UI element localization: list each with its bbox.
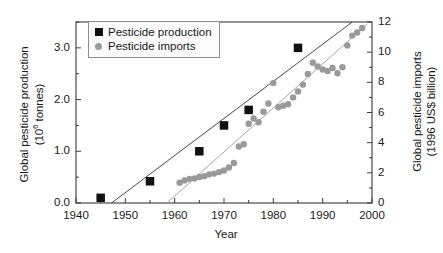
data-point-imports-1997: [354, 29, 360, 35]
x-tick-label-1940: 1940: [54, 209, 98, 221]
data-point-imports-1986: [300, 81, 306, 87]
data-point-imports-1998: [359, 25, 365, 31]
y-right-tick-label-10: 10: [378, 45, 402, 57]
x-tick-label-2000: 2000: [350, 209, 394, 221]
data-point-production-1970: [220, 121, 229, 130]
data-point-imports-1980: [270, 80, 276, 86]
legend-label-1: Pesticide production: [108, 26, 212, 38]
data-point-imports-1979: [265, 100, 271, 106]
legend-row-1: Pesticide production: [94, 25, 212, 39]
data-point-imports-1992: [329, 65, 335, 71]
legend-label-2: Pesticide imports: [108, 40, 196, 52]
x-tick-label-1990: 1990: [301, 209, 345, 221]
y-right-tick-label-6: 6: [378, 106, 402, 118]
data-point-imports-1984: [290, 94, 296, 100]
square-marker-icon: [95, 28, 103, 36]
data-point-production-1955: [146, 177, 155, 186]
y-right-tick-label-12: 12: [378, 15, 402, 27]
data-point-production-1965: [195, 147, 204, 156]
pesticide-chart-figure: Global pesticide production (106 tonnes)…: [0, 0, 443, 253]
y-axis-left-title-line1: Global pesticide production: [18, 46, 30, 182]
y-right-tick-label-0: 0: [378, 196, 402, 208]
data-point-imports-1994: [339, 64, 345, 70]
data-point-imports-1993: [334, 70, 340, 76]
x-tick-label-1980: 1980: [251, 209, 295, 221]
data-point-imports-1985: [295, 88, 301, 94]
y-axis-right-title-line2: (1996 US$ billion): [425, 67, 437, 157]
data-point-imports-1971: [226, 164, 232, 170]
data-point-imports-1972: [231, 160, 237, 166]
data-point-imports-1975: [245, 121, 251, 127]
data-point-imports-1995: [344, 42, 350, 48]
circle-marker-icon: [95, 43, 102, 50]
chart-legend: Pesticide productionPesticide imports: [88, 21, 220, 58]
x-tick-label-1950: 1950: [103, 209, 147, 221]
legend-row-2: Pesticide imports: [94, 39, 212, 53]
y-right-tick-label-8: 8: [378, 75, 402, 87]
y-left-tick-label-2.0: 2.0: [36, 93, 70, 105]
x-tick-label-1970: 1970: [202, 209, 246, 221]
y-axis-right-title-line1: Global pesticide imports: [411, 51, 423, 171]
data-point-production-1945: [96, 194, 105, 203]
y-right-tick-label-2: 2: [378, 166, 402, 178]
data-point-production-1975: [244, 106, 253, 115]
legend-swatch-circle: [94, 43, 103, 50]
y-axis-right-title: Global pesticide imports (1996 US$ billi…: [411, 17, 438, 207]
y-left-tick-label-0.0: 0.0: [36, 196, 70, 208]
data-point-imports-1974: [241, 141, 247, 147]
data-point-imports-1978: [260, 109, 266, 115]
data-point-imports-1987: [305, 71, 311, 77]
data-point-imports-1977: [255, 119, 261, 125]
y-left-tick-label-3.0: 3.0: [36, 41, 70, 53]
x-axis-title: Year: [176, 228, 276, 242]
legend-swatch-square: [94, 28, 103, 36]
data-point-production-1985: [294, 44, 303, 53]
y-axis-left-exponent: 6: [31, 125, 40, 129]
y-right-tick-label-4: 4: [378, 136, 402, 148]
y-left-tick-label-1.0: 1.0: [36, 144, 70, 156]
x-tick-label-1960: 1960: [153, 209, 197, 221]
data-point-imports-1983: [285, 101, 291, 107]
